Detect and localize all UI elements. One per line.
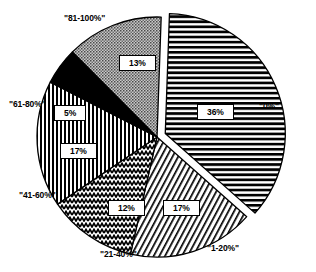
pie-chart-figure: "81-100%" "0%" "61-80%" "41-60%" "21-40%… [0,0,316,272]
slice-category-label-0: "0%" [259,101,279,111]
slice-category-label-41-60: "41-60%" [19,190,56,200]
slice-category-label-81-100: "81-100%" [64,13,105,23]
slice-value-label-41-60: 17% [60,143,97,159]
slice-value-label-81-100: 13% [119,55,156,71]
slice-value-label-1-20: 17% [163,200,200,216]
slice-value-label-61-80: 5% [54,105,86,121]
slice-category-label-1-20: "1-20%" [207,243,239,253]
slice-category-label-21-40: "21-40%" [100,249,137,259]
slice-value-label-21-40: 12% [108,200,145,216]
pie-slice-group [37,14,285,257]
slice-value-label-0: 36% [197,104,234,120]
pie-chart-canvas [0,0,316,272]
slice-category-label-61-80: "61-80%" [9,99,46,109]
